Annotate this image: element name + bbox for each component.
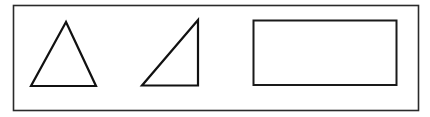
diagram-canvas xyxy=(0,0,430,117)
right-triangle-shape xyxy=(142,20,198,86)
rectangle-shape xyxy=(254,21,397,86)
isosceles-triangle-shape xyxy=(31,22,96,86)
shapes-diagram xyxy=(0,0,430,117)
